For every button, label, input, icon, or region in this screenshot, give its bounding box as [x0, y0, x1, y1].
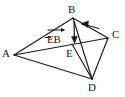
- vector-label-eb-text: EB: [47, 33, 60, 45]
- edge-C-D: [92, 38, 108, 79]
- vertex-label-B: B: [68, 4, 75, 15]
- vector-label-eb: EB: [47, 29, 60, 47]
- vector-overbar-arrow-icon: [47, 27, 66, 33]
- geometry-svg: [0, 0, 125, 97]
- vertex-label-D: D: [88, 82, 96, 93]
- vertex-label-C: C: [112, 29, 119, 40]
- arrowhead-down-icon: [71, 36, 77, 43]
- arrowhead-left-icon: [81, 21, 89, 28]
- vector-diagram: A B C D E EB: [0, 0, 125, 97]
- vector-B-downward: [71, 22, 77, 44]
- vertex-label-A: A: [2, 48, 10, 59]
- vertex-label-E: E: [66, 48, 73, 59]
